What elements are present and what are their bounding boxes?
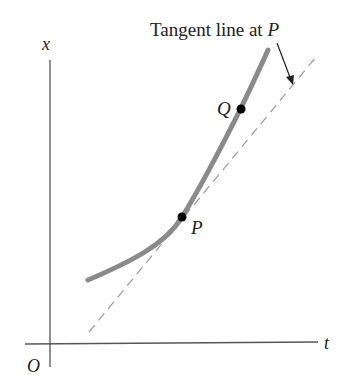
- point-p: [178, 213, 187, 222]
- diagram-svg: P Q x t O Tangent line at P: [0, 0, 349, 383]
- horizontal-axis-label: t: [324, 333, 330, 353]
- origin-label: O: [27, 356, 40, 376]
- point-q: [237, 105, 246, 114]
- tangent-caption: Tangent line at P: [150, 19, 279, 40]
- tangent-pointer-arrow: [277, 43, 291, 80]
- tangent-line: [89, 57, 316, 332]
- t-axis-horizontal: [25, 342, 318, 344]
- point-q-label: Q: [217, 98, 231, 119]
- vertical-axis-label: x: [41, 34, 50, 54]
- position-curve: [88, 50, 268, 280]
- tangent-line-diagram: P Q x t O Tangent line at P: [0, 0, 349, 383]
- arrowhead-icon: [286, 75, 294, 85]
- tangent-caption-text: Tangent line at: [150, 19, 267, 40]
- tangent-caption-point: P: [266, 19, 279, 40]
- point-p-label: P: [190, 217, 203, 238]
